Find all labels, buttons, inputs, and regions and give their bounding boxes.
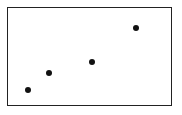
scatter-chart bbox=[0, 0, 182, 115]
data-points bbox=[0, 0, 182, 115]
data-point-3 bbox=[89, 59, 95, 65]
data-point-1 bbox=[25, 87, 31, 93]
data-point-4 bbox=[133, 25, 139, 31]
data-point-2 bbox=[46, 70, 52, 76]
